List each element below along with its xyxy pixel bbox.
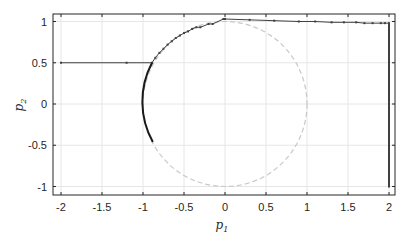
grid-lines [53, 14, 395, 195]
trajectory-marker [380, 22, 382, 24]
y-tick-label: -0.5 [28, 139, 47, 151]
trajectory-marker [224, 18, 226, 20]
trajectory-marker [273, 20, 275, 22]
trajectory-marker [372, 22, 374, 24]
trajectory-marker [212, 23, 214, 25]
trajectory-marker [154, 57, 156, 59]
trajectory-marker [195, 26, 197, 28]
trajectory-marker [167, 44, 169, 46]
y-tick-label: 1 [41, 16, 47, 28]
trajectory-marker [163, 48, 165, 50]
trajectory-marker [187, 30, 189, 32]
trajectory-marker [171, 40, 173, 42]
y-tick-label: 0 [41, 98, 47, 110]
x-tick-label: 0.5 [258, 201, 273, 213]
x-tick-label: 2 [386, 201, 392, 213]
trajectory-marker [179, 35, 181, 37]
trajectory-marker [191, 28, 193, 30]
trajectory-marker [126, 62, 128, 64]
trajectory-marker [60, 62, 62, 64]
y-tick-label: -1 [37, 181, 47, 193]
trajectory-marker [199, 26, 201, 28]
trajectory-marker [343, 21, 345, 23]
chart: -2-1.5-1-0.500.511.52-1-0.500.51 p1 p2 [0, 0, 413, 239]
trajectory-marker [249, 19, 251, 21]
x-tick-label: -1 [138, 201, 148, 213]
x-axis-label-subscript: 1 [223, 225, 228, 234]
axis-ticks: -2-1.5-1-0.500.511.52-1-0.500.51 [28, 14, 395, 213]
x-tick-label: -1.5 [93, 201, 112, 213]
x-tick-label: 0 [222, 201, 228, 213]
trajectory-marker [314, 21, 316, 23]
trajectory-marker [158, 52, 160, 54]
trajectory-marker [355, 21, 357, 23]
arc-segment [142, 63, 152, 142]
trajectory-marker [208, 23, 210, 25]
x-tick-label: 1 [304, 201, 310, 213]
trajectory-marker [183, 32, 185, 34]
x-tick-label: -2 [56, 201, 66, 213]
trajectory-marker [384, 22, 386, 24]
y-tick-label: 0.5 [32, 57, 47, 69]
x-tick-label: -0.5 [175, 201, 194, 213]
y-axis-label: p2 [12, 99, 28, 112]
y-axis-label-subscript: 2 [19, 99, 28, 105]
trajectory-marker [331, 21, 333, 23]
x-axis-label: p1 [216, 218, 229, 234]
x-tick-label: 1.5 [340, 201, 355, 213]
trajectory-marker [363, 22, 365, 24]
trajectory-marker [298, 21, 300, 23]
trajectory-marker [175, 37, 177, 39]
